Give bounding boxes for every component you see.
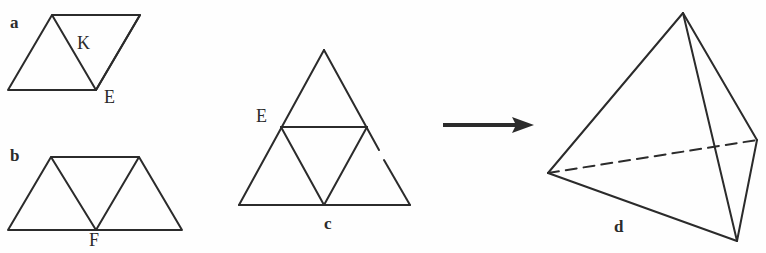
vertex-label-k: K [77, 34, 90, 52]
panel-d-shape [548, 13, 757, 241]
panel-label-c: c [324, 215, 332, 232]
tetra-edge-right-bottom [737, 140, 757, 241]
panel-a-shape [8, 15, 140, 90]
panel-b-outline [8, 157, 182, 230]
transformation-arrow [443, 117, 534, 133]
panel-c-midline-right [324, 127, 367, 205]
panel-c-shape [239, 50, 410, 205]
panel-c-midline-left [281, 127, 324, 205]
tetra-edge-apex-right [683, 13, 757, 140]
panel-a-diagonal-right [96, 15, 140, 90]
panel-b-shape [8, 157, 182, 230]
panel-c-outline-right-upper [324, 50, 379, 150]
panel-label-a: a [10, 14, 19, 31]
tetra-edge-apex-bottom [683, 13, 737, 241]
tetra-edge-left-bottom [548, 173, 737, 241]
panel-c-outline-right-lower [384, 160, 410, 205]
tetra-edge-hidden-left-right [548, 140, 757, 173]
panel-b-edge-right [96, 157, 139, 230]
tetra-edge-apex-left [548, 13, 683, 173]
vertex-label-e-panel-c: E [256, 107, 267, 125]
figure-canvas [0, 0, 766, 253]
vertex-label-f-panel-b: F [89, 231, 99, 249]
vertex-label-e-panel-a: E [104, 88, 115, 106]
panel-label-d: d [614, 218, 623, 235]
panel-label-b: b [10, 147, 19, 164]
panel-b-edge-left [51, 157, 96, 230]
